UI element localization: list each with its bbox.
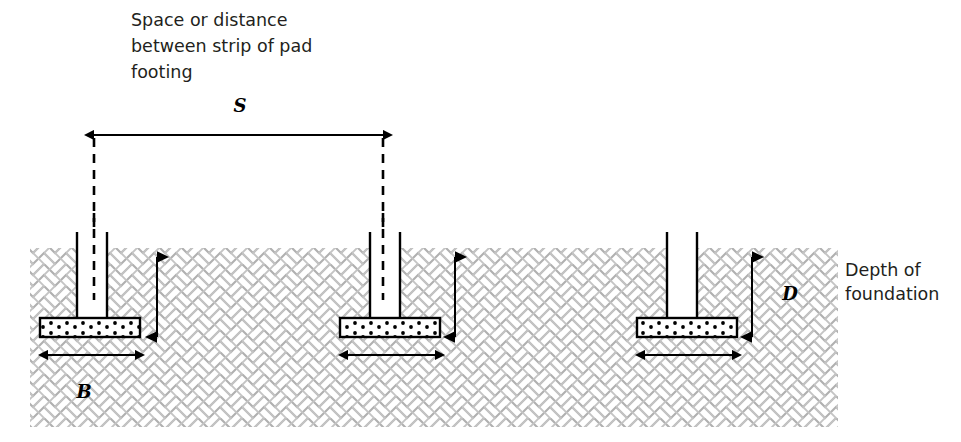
depth-caption-line-1: Depth of <box>845 260 922 280</box>
spacing-caption-line-2: between strip of pad <box>131 36 312 56</box>
right-footing-column-body <box>667 232 697 320</box>
width-dimension-label: B <box>75 381 91 402</box>
foundation-spacing-diagram: Space or distance between strip of pad f… <box>0 0 961 442</box>
middle-footing-pad <box>340 318 440 337</box>
spacing-caption-line-1: Space or distance <box>131 10 288 30</box>
left-footing-column-body <box>77 232 107 320</box>
middle-footing-column-body <box>370 232 400 320</box>
spacing-dimension-label: S <box>234 95 247 116</box>
left-footing-pad <box>40 318 140 337</box>
depth-dimension-label: D <box>781 283 798 304</box>
spacing-caption-line-3: footing <box>131 62 193 82</box>
right-footing-pad <box>637 318 737 337</box>
depth-caption-line-2: foundation <box>845 284 939 304</box>
